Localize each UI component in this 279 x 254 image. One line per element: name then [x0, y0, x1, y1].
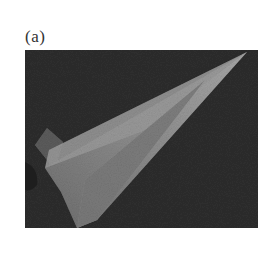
aircraft-image — [25, 50, 258, 228]
aircraft-render — [25, 50, 258, 228]
panel-label: (a) — [25, 27, 45, 47]
